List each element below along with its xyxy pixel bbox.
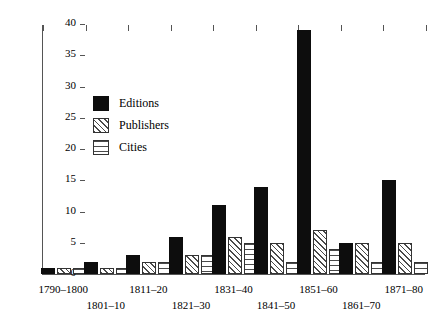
x-axis-label: 1841–50	[257, 299, 296, 311]
y-tick-mark	[80, 24, 85, 25]
bar-editions	[339, 243, 353, 274]
y-tick-mark	[80, 87, 85, 88]
bar-publishers	[270, 243, 284, 274]
y-tick-label: 25	[65, 111, 76, 122]
legend-label-editions: Editions	[119, 95, 159, 111]
bar-publishers	[398, 243, 412, 274]
bar-editions	[84, 262, 98, 275]
bar-chart: 0510152025303540 1790–18001801–101811–20…	[0, 0, 444, 323]
x-tick-mark	[213, 25, 214, 31]
y-tick-mark	[80, 118, 85, 119]
bar-editions	[254, 187, 268, 275]
x-tick-mark	[171, 25, 172, 31]
x-tick-mark	[43, 25, 44, 31]
y-tick-mark	[80, 212, 85, 213]
bar-publishers	[313, 230, 327, 274]
bar-editions	[297, 30, 311, 274]
bar-publishers	[185, 255, 199, 274]
y-tick-mark	[80, 55, 85, 56]
legend-swatch-cities-icon	[93, 140, 109, 155]
bar-editions	[41, 268, 55, 274]
x-axis-label: 1851–60	[299, 283, 338, 295]
y-tick-mark	[80, 180, 85, 181]
y-tick-mark	[80, 149, 85, 150]
x-axis-label: 1790–1800	[39, 283, 89, 295]
bar-publishers	[228, 237, 242, 275]
y-tick-label: 30	[65, 80, 76, 91]
bar-publishers	[142, 262, 156, 275]
y-tick-label: 20	[65, 142, 76, 153]
x-tick-mark	[128, 25, 129, 31]
x-tick-mark	[86, 25, 87, 31]
x-axis-label: 1801–10	[87, 299, 126, 311]
x-axis-label: 1861–70	[342, 299, 381, 311]
bar-editions	[169, 237, 183, 275]
x-axis-label: 1831–40	[214, 283, 253, 295]
x-axis-label: 1821–30	[172, 299, 211, 311]
y-tick-label: 35	[65, 48, 76, 59]
x-axis-label: 1811–20	[129, 283, 167, 295]
bar-editions	[212, 205, 226, 274]
x-tick-mark	[426, 25, 427, 31]
x-axis-label: 1871–80	[384, 283, 423, 295]
y-tick-label: 15	[65, 173, 76, 184]
legend-swatch-editions-icon	[93, 96, 109, 111]
x-tick-mark	[383, 25, 384, 31]
y-tick-label: 40	[65, 17, 76, 28]
bar-cities	[414, 262, 428, 275]
bar-publishers	[57, 268, 71, 274]
legend-label-cities: Cities	[119, 139, 147, 155]
legend-swatch-publishers-icon	[93, 118, 109, 133]
bar-editions	[382, 180, 396, 274]
y-tick-mark	[80, 243, 85, 244]
x-tick-mark	[256, 25, 257, 31]
bar-editions	[126, 255, 140, 274]
bar-publishers	[355, 243, 369, 274]
y-tick-label: 10	[65, 205, 76, 216]
bar-publishers	[100, 268, 114, 274]
x-tick-mark	[341, 25, 342, 31]
y-tick-label: 5	[71, 236, 77, 247]
legend-label-publishers: Publishers	[119, 117, 169, 133]
y-tick-mark	[80, 274, 85, 275]
